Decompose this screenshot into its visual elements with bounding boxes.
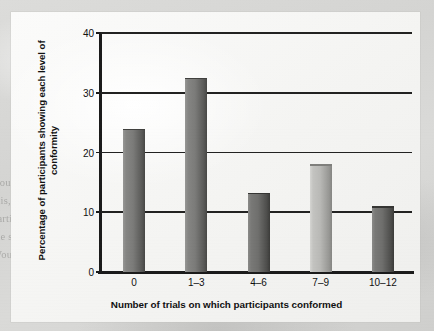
y-tick-mark: [96, 92, 101, 94]
chart-figure: Percentage of participants showing each …: [11, 12, 420, 322]
gridline: [101, 32, 412, 34]
bar: [310, 164, 332, 272]
y-tick-mark: [96, 152, 101, 154]
gridline: [101, 152, 412, 154]
x-tick-label: 1–3: [188, 277, 205, 288]
bar-top-edge: [123, 129, 145, 131]
x-tick-label: 7–9: [312, 277, 329, 288]
x-tick-label: 4–6: [250, 277, 267, 288]
bar: [123, 129, 145, 272]
y-tick-mark: [96, 211, 101, 213]
y-axis-title: Percentage of participants showing each …: [36, 35, 61, 265]
y-tick-mark: [96, 32, 101, 34]
bar-top-edge: [372, 206, 394, 208]
y-tick-label: 30: [83, 87, 94, 98]
y-tick-label: 10: [83, 207, 94, 218]
x-tick-label: 0: [131, 277, 137, 288]
bar: [372, 206, 394, 272]
bar-top-edge: [248, 193, 270, 195]
x-tick-label: 10–12: [369, 277, 397, 288]
gridline: [101, 92, 412, 94]
y-tick-label: 20: [83, 147, 94, 158]
plot-area: 010203040 01–34–67–910–12: [101, 33, 412, 272]
y-tick-mark: [96, 271, 101, 273]
bar-top-edge: [185, 78, 207, 80]
y-tick-label: 40: [83, 28, 94, 39]
y-tick-label: 0: [88, 267, 94, 278]
bar: [185, 78, 207, 272]
bar: [248, 193, 270, 272]
bar-top-edge: [310, 164, 332, 166]
x-axis-title: Number of trials on which participants c…: [11, 299, 420, 310]
